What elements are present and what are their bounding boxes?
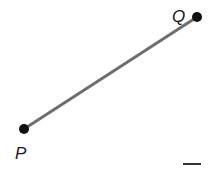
label-p: P: [15, 144, 27, 163]
diagram-canvas: P Q: [0, 0, 216, 176]
point-q: [192, 12, 202, 22]
segment-pq: [24, 17, 197, 129]
segment-diagram: P Q: [0, 0, 216, 176]
point-p: [19, 124, 29, 134]
label-q: Q: [172, 7, 185, 26]
